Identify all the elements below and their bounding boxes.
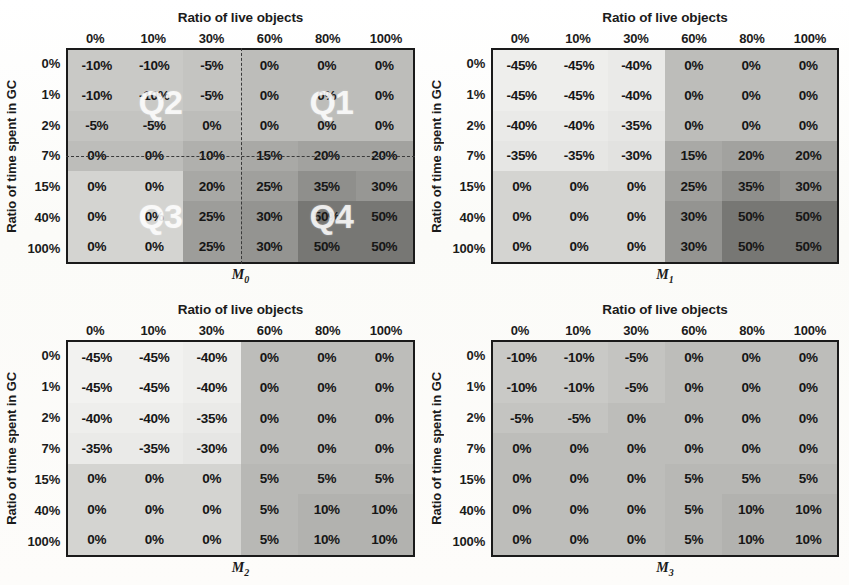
heatmap-cell: 35% <box>298 171 356 201</box>
heatmap-cell: 0% <box>241 111 299 141</box>
heatmap-cell: 0% <box>183 494 241 524</box>
heatmap-matrix: -45%-45%-40%0%0%0%-45%-45%-40%0%0%0%-40%… <box>66 340 415 557</box>
heatmap-cell: 50% <box>722 201 779 231</box>
heatmap-cell: 0% <box>608 464 665 494</box>
heatmap-cell: 0% <box>608 232 665 262</box>
heatmap-cell: 0% <box>298 433 356 463</box>
heatmap-matrix: -10%-10%-5%0%0%0%-10%-10%-5%0%0%0%-5%-5%… <box>491 340 839 557</box>
heatmap-cell: 35% <box>722 171 779 201</box>
heatmap-cell: 0% <box>126 464 184 494</box>
heatmap-cell: 0% <box>780 403 837 433</box>
heatmap-cell: -10% <box>126 50 184 80</box>
heatmap-cell: 0% <box>356 433 414 463</box>
heatmap-cell: 0% <box>241 50 299 80</box>
y-axis-title: Ratio of time spent in GC <box>429 372 444 525</box>
heatmap-cell: 30% <box>780 171 837 201</box>
heatmap-cell: -5% <box>608 342 665 372</box>
heatmap-cell: 0% <box>356 80 414 110</box>
heatmap-cell: 5% <box>298 464 356 494</box>
heatmap-cell: 0% <box>665 433 722 463</box>
heatmap-cell: 0% <box>493 232 550 262</box>
heatmap-cell: 0% <box>550 494 607 524</box>
row-header: 2% <box>20 402 66 433</box>
row-header-column: 0%1%2%7%15%40%100% <box>445 340 491 557</box>
column-header-row: 0%10%30%60%80%100% <box>66 320 415 340</box>
heatmap-cell: 0% <box>493 464 550 494</box>
heatmap-panel-m0: Ratio of live objects0%10%30%60%80%100%R… <box>0 0 425 292</box>
heatmap-cell: 0% <box>68 525 126 555</box>
heatmap-cell: -30% <box>608 141 665 171</box>
heatmap-cell: 0% <box>356 50 414 80</box>
heatmap-cell: 10% <box>356 494 414 524</box>
row-header: 0% <box>445 48 491 79</box>
heatmap-cell: 0% <box>241 403 299 433</box>
heatmap-cell: -45% <box>126 342 184 372</box>
heatmap-cell: 25% <box>183 201 241 231</box>
column-header: 0% <box>491 31 549 46</box>
heatmap-cell: 0% <box>126 232 184 262</box>
heatmap-cell: 50% <box>722 232 779 262</box>
heatmap-cell: 0% <box>241 433 299 463</box>
heatmap-cell: 0% <box>722 50 779 80</box>
heatmap-cell: 0% <box>68 232 126 262</box>
heatmap-cell: 0% <box>780 433 837 463</box>
heatmap-cell: 5% <box>665 525 722 555</box>
heatmap-cell: -40% <box>183 342 241 372</box>
panel-label-subscript: 0 <box>244 274 249 285</box>
heatmap-cell: 0% <box>550 171 607 201</box>
heatmap-cell: 10% <box>780 525 837 555</box>
column-header: 0% <box>66 323 124 338</box>
column-header: 30% <box>182 31 240 46</box>
heatmap-cell: 0% <box>722 342 779 372</box>
heatmap-cell: 0% <box>665 80 722 110</box>
heatmap-cell: 30% <box>665 232 722 262</box>
heatmap-cell: 0% <box>780 342 837 372</box>
heatmap-cell: 15% <box>241 141 299 171</box>
heatmap-cell: 0% <box>550 201 607 231</box>
heatmap-cell: 15% <box>665 141 722 171</box>
heatmap-cell: 0% <box>241 80 299 110</box>
heatmap-cell: 0% <box>356 342 414 372</box>
heatmap-cell: 0% <box>356 372 414 402</box>
heatmap-cell: -45% <box>550 50 607 80</box>
heatmap-cell: 0% <box>126 494 184 524</box>
heatmap-cell: 0% <box>722 433 779 463</box>
column-header: 80% <box>299 323 357 338</box>
column-header: 10% <box>124 31 182 46</box>
heatmap-cell: 0% <box>608 201 665 231</box>
y-axis-title: Ratio of time spent in GC <box>4 80 19 233</box>
heatmap-cell: 0% <box>780 80 837 110</box>
heatmap-cell: 0% <box>608 171 665 201</box>
heatmap-cell: 0% <box>241 342 299 372</box>
column-header: 80% <box>299 31 357 46</box>
column-header: 60% <box>665 31 723 46</box>
column-header: 10% <box>124 323 182 338</box>
row-header: 1% <box>20 79 66 110</box>
heatmap-cell: 0% <box>241 372 299 402</box>
heatmap-cell: 10% <box>722 494 779 524</box>
column-header: 80% <box>723 31 781 46</box>
heatmap-cell: 0% <box>722 111 779 141</box>
column-header: 100% <box>357 31 415 46</box>
heatmap-cell: -45% <box>493 50 550 80</box>
heatmap-cell: 20% <box>356 141 414 171</box>
heatmap-cell: 30% <box>241 232 299 262</box>
heatmap-cell: 0% <box>665 111 722 141</box>
heatmap-cell: -45% <box>68 372 126 402</box>
heatmap-cell: -40% <box>550 111 607 141</box>
panel-label-m2: M2 <box>66 557 415 583</box>
column-header-row: 0%10%30%60%80%100% <box>491 28 839 48</box>
heatmap-cell: 10% <box>298 525 356 555</box>
column-header: 100% <box>781 323 839 338</box>
x-axis-title: Ratio of live objects <box>66 10 415 25</box>
x-axis-title: Ratio of live objects <box>491 302 839 317</box>
heatmap-cell: 0% <box>183 464 241 494</box>
row-header: 15% <box>445 464 491 495</box>
heatmap-cell: 20% <box>780 141 837 171</box>
x-axis-title: Ratio of live objects <box>491 10 839 25</box>
heatmap-cell: -5% <box>183 80 241 110</box>
heatmap-cell: 0% <box>298 50 356 80</box>
column-header-row: 0%10%30%60%80%100% <box>491 320 839 340</box>
panel-label-subscript: 3 <box>669 567 674 578</box>
row-header: 100% <box>445 526 491 557</box>
